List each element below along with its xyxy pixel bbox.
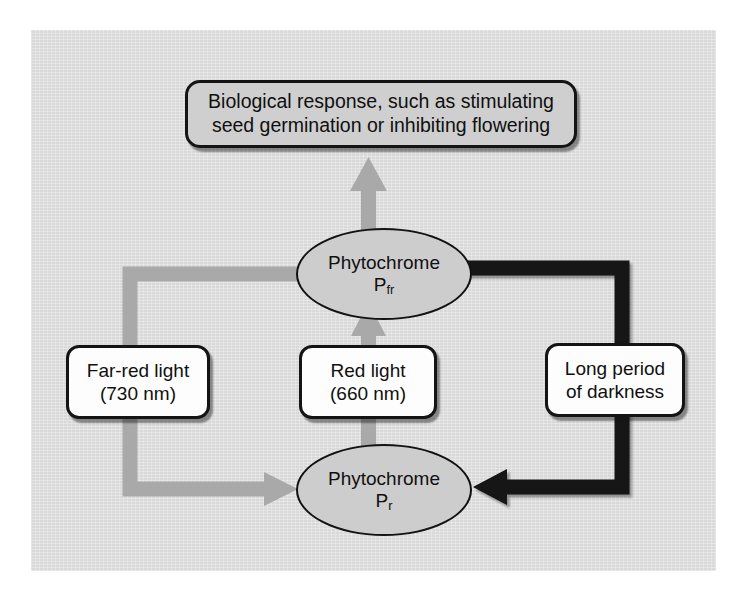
pr-symbol-label: Pr bbox=[376, 490, 393, 512]
darkness-line-2: of darkness bbox=[565, 380, 665, 403]
far-red-line-2: (730 nm) bbox=[87, 382, 189, 405]
pfr-subscript: fr bbox=[386, 282, 394, 297]
arrow-pfr-to-response bbox=[350, 157, 387, 233]
red-light-text: Red light (660 nm) bbox=[330, 359, 406, 405]
pr-symbol: P bbox=[376, 490, 389, 511]
phytochrome-pfr-node: Phytochrome Pfr bbox=[296, 228, 472, 320]
long-darkness-box: Long period of darkness bbox=[545, 343, 685, 417]
pfr-name-label: Phytochrome bbox=[328, 252, 440, 274]
biological-response-text: Biological response, such as stimulating… bbox=[208, 90, 554, 138]
darkness-line-1: Long period bbox=[565, 357, 665, 380]
biological-response-box: Biological response, such as stimulating… bbox=[185, 80, 577, 148]
phytochrome-pr-node: Phytochrome Pr bbox=[296, 444, 472, 536]
figure-root: Biological response, such as stimulating… bbox=[0, 0, 752, 603]
pr-subscript: r bbox=[388, 498, 392, 513]
long-darkness-text: Long period of darkness bbox=[565, 357, 665, 403]
red-line-2: (660 nm) bbox=[330, 382, 406, 405]
far-red-line-1: Far-red light bbox=[87, 359, 189, 382]
pfr-symbol: P bbox=[374, 274, 387, 295]
far-red-light-text: Far-red light (730 nm) bbox=[87, 359, 189, 405]
red-line-1: Red light bbox=[330, 359, 406, 382]
response-line-1: Biological response, such as stimulating bbox=[208, 90, 554, 114]
pfr-symbol-label: Pfr bbox=[374, 274, 395, 296]
far-red-light-box: Far-red light (730 nm) bbox=[66, 345, 210, 419]
red-light-box: Red light (660 nm) bbox=[299, 345, 437, 419]
response-line-2: seed germination or inhibiting flowering bbox=[208, 114, 554, 138]
pr-name-label: Phytochrome bbox=[328, 468, 440, 490]
